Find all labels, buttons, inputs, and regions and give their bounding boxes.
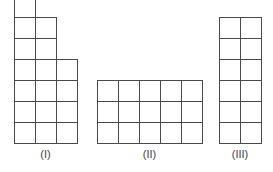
grid-cell (35, 38, 57, 60)
grid-cell (97, 80, 119, 102)
grid-cell (240, 80, 262, 102)
grid-cell (56, 122, 78, 144)
grid-cell (97, 101, 119, 123)
figure-ii-label: (II) (130, 148, 170, 160)
grid-cell (240, 59, 262, 81)
grid-cell (14, 122, 36, 144)
grid-cell (240, 101, 262, 123)
grid-cell (14, 38, 36, 60)
grid-cell (240, 38, 262, 60)
grid-cell (14, 59, 36, 81)
grid-cell (139, 122, 161, 144)
grid-cell (56, 101, 78, 123)
grid-cell (219, 59, 241, 81)
grid-cell (14, 80, 36, 102)
grid-cell (56, 80, 78, 102)
figure-i-label: (I) (26, 148, 66, 160)
grid-cell (118, 122, 140, 144)
grid-cell (219, 38, 241, 60)
grid-cell (35, 59, 57, 81)
grid-cell (219, 17, 241, 39)
grid-cell (240, 17, 262, 39)
grid-cell (160, 80, 182, 102)
grid-cell (35, 122, 57, 144)
grid-cell (14, 101, 36, 123)
grid-cell (181, 122, 203, 144)
grid-cell (56, 59, 78, 81)
grid-cell (139, 101, 161, 123)
grid-cell (240, 122, 262, 144)
grid-cell (219, 122, 241, 144)
grid-cell (219, 80, 241, 102)
grid-cell (97, 122, 119, 144)
grid-cell (14, 0, 36, 18)
grid-cell (139, 80, 161, 102)
grid-cell (219, 101, 241, 123)
figure-iii-label: (III) (220, 148, 260, 160)
grid-cell (160, 122, 182, 144)
grid-cell (181, 80, 203, 102)
grid-cell (35, 80, 57, 102)
grid-cell (118, 101, 140, 123)
grid-cell (35, 17, 57, 39)
grid-cell (118, 80, 140, 102)
grid-cell (35, 101, 57, 123)
grid-cell (14, 17, 36, 39)
grid-cell (160, 101, 182, 123)
grid-cell (181, 101, 203, 123)
